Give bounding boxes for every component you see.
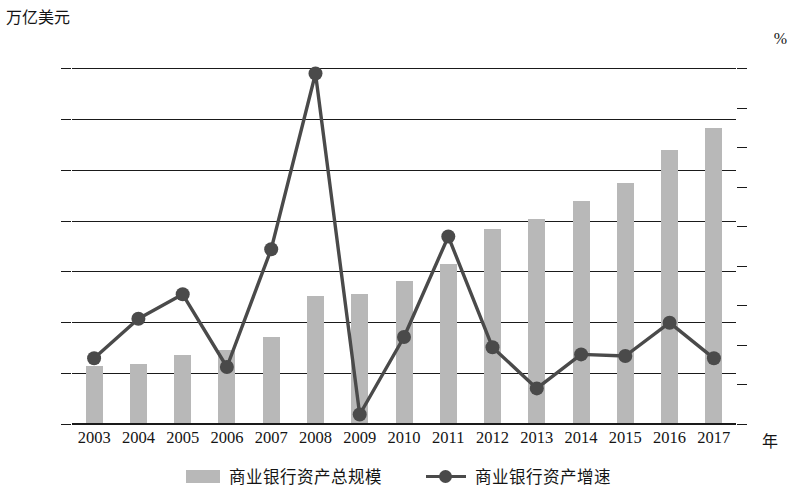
x-axis-line (72, 423, 736, 425)
left-axis-tick (61, 68, 71, 69)
line-marker (220, 360, 234, 374)
line-marker (131, 312, 145, 326)
left-axis-tick (61, 271, 71, 272)
line-marker (353, 408, 367, 422)
right-axis-tick (737, 266, 747, 267)
legend-line-swatch (426, 469, 466, 483)
left-axis-tick (61, 221, 71, 222)
left-axis-tick (61, 424, 71, 425)
line-marker (309, 67, 323, 81)
legend-bar-label: 商业银行资产总规模 (229, 464, 382, 488)
legend-bar-swatch (186, 470, 220, 483)
line-marker (530, 381, 544, 395)
right-axis-tick (737, 345, 747, 346)
right-axis-tick (737, 187, 747, 188)
line-marker (441, 230, 455, 244)
line-marker (87, 351, 101, 365)
line-marker (397, 330, 411, 344)
line-marker (574, 347, 588, 361)
right-axis-tick (737, 384, 747, 385)
right-axis-tick (737, 305, 747, 306)
right-axis-tick (737, 226, 747, 227)
left-axis-tick (61, 373, 71, 374)
legend-line-label: 商业银行资产增速 (475, 464, 611, 488)
line-markers (87, 67, 721, 422)
line-path (94, 74, 714, 415)
right-axis-unit-label: % (774, 30, 787, 48)
line-marker (618, 349, 632, 363)
plot-area: 05101520253035 051015202530354045 (72, 68, 736, 424)
legend-item-line: 商业银行资产增速 (426, 464, 611, 488)
x-axis-tick-label: 2017 (685, 428, 743, 448)
left-axis-unit-label: 万亿美元 (6, 4, 70, 28)
left-axis-tick (61, 170, 71, 171)
line-marker (486, 340, 500, 354)
line-series (72, 68, 736, 424)
line-marker (264, 242, 278, 256)
line-marker (707, 351, 721, 365)
legend-item-bar: 商业银行资产总规模 (186, 464, 382, 488)
chart-container: 万亿美元 % 05101520253035 051015202530354045… (0, 0, 797, 498)
x-axis-unit-label: 年 (762, 428, 778, 452)
chart-legend: 商业银行资产总规模 商业银行资产增速 (0, 464, 797, 488)
right-axis-tick (737, 68, 747, 69)
right-axis-tick (737, 424, 747, 425)
line-marker (663, 316, 677, 330)
right-axis-tick (737, 108, 747, 109)
left-axis-tick (61, 119, 71, 120)
left-axis-tick (61, 322, 71, 323)
line-marker (176, 287, 190, 301)
right-axis-tick (737, 147, 747, 148)
